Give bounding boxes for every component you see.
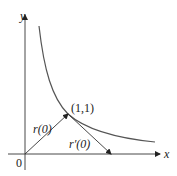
origin-label: 0 [16,156,22,170]
x-axis-label: x [163,147,170,161]
diagram-canvas: y x 0 (1,1) r(0) r′(0) [0,0,177,176]
point-label: (1,1) [71,101,94,115]
position-vector-label: r(0) [33,122,52,136]
y-axis-label: y [19,9,26,23]
tangent-vector-label: r′(0) [69,137,90,151]
